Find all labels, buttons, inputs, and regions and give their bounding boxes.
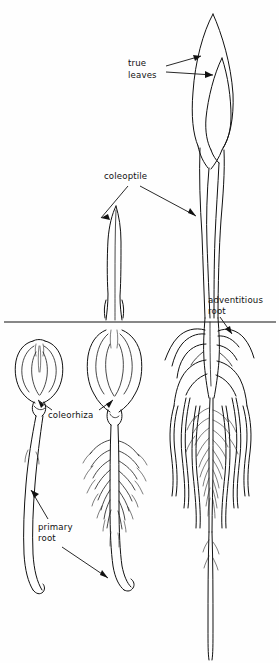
true-leaves-leader-upper bbox=[166, 55, 201, 66]
coleorhiza-label: coleorhiza bbox=[48, 410, 93, 420]
coleoptile-stage-3 bbox=[200, 148, 225, 318]
true-leaves-label-line2: leaves bbox=[128, 70, 157, 80]
seedling-stage-1 bbox=[15, 340, 63, 594]
adventitious-root-label-line1: adventitious bbox=[208, 295, 263, 305]
seed-grain-stage-1 bbox=[15, 340, 63, 404]
coleoptile-leader-right bbox=[140, 186, 196, 216]
adventitious-roots-upper bbox=[165, 329, 254, 378]
coleoptile-stage-2 bbox=[104, 206, 123, 320]
adventitious-root-label-line2: root bbox=[208, 306, 226, 316]
label-true-leaves: true leaves bbox=[128, 55, 213, 80]
primary-root-label-line2: root bbox=[38, 533, 56, 543]
lateral-roots-stage-2 bbox=[83, 440, 147, 547]
primary-root-label-line1: primary bbox=[38, 522, 73, 532]
label-primary-root: primary root bbox=[31, 490, 108, 578]
coleorhiza-stage-2 bbox=[107, 410, 122, 425]
coleoptile-leader-left bbox=[101, 186, 128, 220]
germination-figure: true leaves coleoptile adventitious root bbox=[0, 0, 279, 663]
true-leaf-outer bbox=[192, 14, 233, 169]
adventitious-roots-descending bbox=[170, 398, 251, 528]
diagram-canvas: true leaves coleoptile adventitious root bbox=[0, 0, 279, 663]
adventitious-root-leader bbox=[220, 317, 232, 334]
root-crown-stage-3 bbox=[204, 318, 220, 398]
label-adventitious-root: adventitious root bbox=[208, 295, 263, 334]
seedling-stage-2 bbox=[83, 206, 147, 591]
true-leaves-leader-lower bbox=[166, 71, 213, 78]
primary-root-stage-3 bbox=[203, 532, 219, 660]
seed-grain-stage-2 bbox=[87, 330, 142, 412]
label-coleorhiza: coleorhiza bbox=[38, 400, 113, 420]
primary-root-leader-lower bbox=[62, 547, 108, 578]
lateral-roots-stage-3 bbox=[186, 398, 238, 532]
primary-root-stage-1 bbox=[24, 416, 45, 594]
true-leaves-label-line1: true bbox=[128, 58, 146, 68]
label-coleoptile: coleoptile bbox=[101, 171, 196, 220]
seedling-stage-3 bbox=[165, 14, 254, 660]
coleoptile-label: coleoptile bbox=[104, 171, 147, 181]
